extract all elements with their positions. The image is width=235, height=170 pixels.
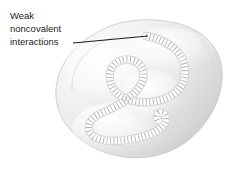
label-line-weak: Weak (10, 10, 34, 21)
upper-right-lobe-highlight (122, 28, 214, 76)
label-line-interactions: interactions (10, 36, 59, 47)
label-line-noncovalent: noncovalent (10, 23, 62, 34)
protein-blob-illustration: Weak noncovalent interactions (0, 0, 235, 170)
protein-folding-figure: Weak noncovalent interactions (0, 0, 235, 170)
annotation-label: Weak noncovalent interactions (10, 10, 62, 47)
